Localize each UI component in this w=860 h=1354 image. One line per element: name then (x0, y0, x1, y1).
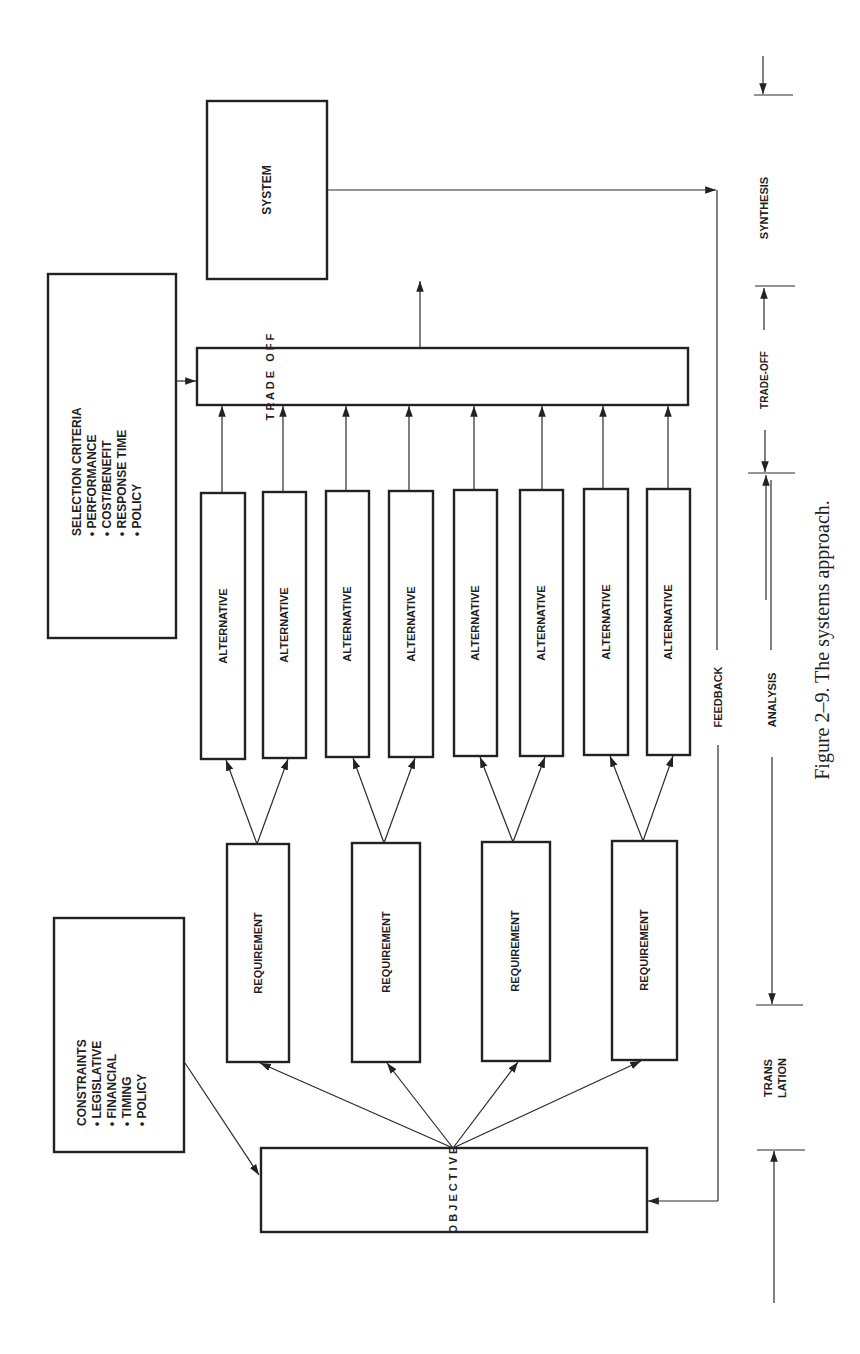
requirement-label: REQUIREMENT (252, 912, 264, 994)
feedback-label: FEEDBACK (712, 666, 724, 727)
requirement-node: REQUIREMENT (227, 844, 289, 1062)
system-node: SYSTEM (207, 101, 327, 279)
alternative-label: ALTERNATIVE (535, 585, 547, 660)
criteria-item-performance: • PERFORMANCE (85, 434, 99, 536)
constraint-item-legislative: • LEGISLATIVE (90, 1041, 104, 1126)
alternative-label: ALTERNATIVE (217, 588, 229, 663)
alternative-node: ALTERNATIVE (454, 490, 497, 756)
alternative-node: ALTERNATIVE (326, 491, 369, 757)
phase-analysis: ANALYSIS (766, 673, 778, 728)
selection-criteria-title: SELECTION CRITERIA (70, 407, 84, 536)
alternative-node: ALTERNATIVE (263, 492, 306, 758)
requirement-node: REQUIREMENT (612, 841, 677, 1060)
requirement-node: REQUIREMENT (352, 843, 420, 1062)
alternatives-group: ALTERNATIVE ALTERNATIVE ALTERNATIVE ALTE… (201, 489, 690, 759)
constraint-item-financial: • FINANCIAL (105, 1054, 119, 1126)
alternative-label: ALTERNATIVE (662, 584, 674, 659)
selection-criteria-box: SELECTION CRITERIA • PERFORMANCE • COST/… (48, 274, 176, 638)
figure-caption: Figure 2–9. The systems approach. (811, 500, 834, 780)
constraints-title: CONSTRAINTS (75, 1039, 89, 1126)
systems-approach-diagram: SYSTEM T R A D E O F F SELECTION CRITERI… (0, 0, 860, 1354)
objective-label: O B J E C T I V E (447, 1147, 459, 1234)
phase-translation-line2: LATION (776, 1058, 788, 1098)
system-label: SYSTEM (260, 165, 274, 214)
alternative-label: ALTERNATIVE (469, 585, 481, 660)
alternative-label: ALTERNATIVE (405, 586, 417, 661)
criteria-item-response-time: • RESPONSE TIME (115, 430, 129, 536)
constraint-item-timing: • TIMING (120, 1076, 134, 1126)
requirements-group: REQUIREMENT REQUIREMENT REQUIREMENT REQU… (227, 841, 677, 1062)
phase-translation-line1: TRANS (762, 1059, 774, 1097)
criteria-item-cost-benefit: • COST/BENEFIT (100, 440, 114, 536)
arrows-alternatives-to-tradeoff (222, 406, 668, 493)
tradeoff-label: T R A D E O F F (264, 333, 276, 420)
constraints-box: CONSTRAINTS • LEGISLATIVE • FINANCIAL • … (54, 918, 184, 1152)
alternative-node: ALTERNATIVE (584, 489, 628, 755)
arrows-objective-to-requirements (260, 1061, 641, 1148)
tradeoff-node: T R A D E O F F (197, 333, 688, 420)
requirement-label: REQUIREMENT (638, 909, 650, 991)
alternative-node: ALTERNATIVE (520, 490, 563, 756)
objective-node: O B J E C T I V E (261, 1147, 647, 1234)
requirement-node: REQUIREMENT (482, 842, 550, 1061)
arrows-requirements-to-alternatives (226, 756, 673, 844)
requirement-label: REQUIREMENT (380, 911, 392, 993)
phase-scale: SYNTHESIS TRADE-OFF ANALYSIS TRANS LATIO… (748, 56, 805, 1303)
alternative-label: ALTERNATIVE (600, 584, 612, 659)
alternative-node: ALTERNATIVE (201, 493, 245, 759)
alternative-node: ALTERNATIVE (647, 489, 690, 755)
phase-tradeoff: TRADE-OFF (759, 351, 770, 409)
alternative-node: ALTERNATIVE (389, 491, 433, 757)
criteria-item-policy: • POLICY (130, 484, 144, 536)
alternative-label: ALTERNATIVE (278, 587, 290, 662)
phase-synthesis: SYNTHESIS (758, 177, 770, 239)
alternative-label: ALTERNATIVE (341, 586, 353, 661)
constraint-item-policy: • POLICY (135, 1074, 149, 1126)
requirement-label: REQUIREMENT (509, 910, 521, 992)
arrow-constraints-to-objective (185, 1063, 259, 1175)
